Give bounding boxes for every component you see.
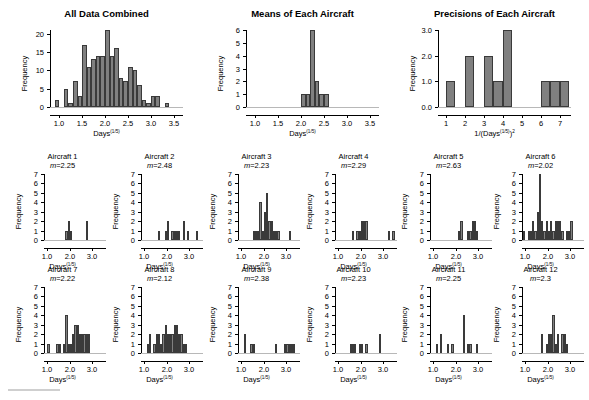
y-tick — [519, 334, 522, 335]
y-tick-label: 4 — [131, 311, 135, 320]
y-axis-label: Frequency — [208, 179, 217, 245]
y-tick — [235, 287, 238, 288]
panel-title: All Data Combined — [14, 8, 199, 19]
x-tick-label: 5 — [520, 119, 524, 128]
y-tick — [235, 193, 238, 194]
histogram-bar — [436, 344, 438, 353]
y-tick — [41, 315, 44, 316]
y-tick-label: 3 — [228, 208, 232, 217]
histogram-bar — [70, 231, 72, 240]
histogram-bar — [460, 221, 462, 240]
y-tick-label: 6 — [512, 179, 516, 188]
y-tick-label: 1 — [34, 227, 38, 236]
x-axis-line — [238, 248, 300, 249]
y-tick — [235, 212, 238, 213]
y-tick — [235, 344, 238, 345]
y-tick — [41, 193, 44, 194]
x-tick-label: 2.0 — [162, 252, 172, 261]
y-tick-label: 7 — [512, 283, 516, 292]
histogram-bar — [86, 221, 88, 240]
y-tick-label: 1 — [131, 340, 135, 349]
x-axis-line — [44, 361, 106, 362]
x-tick-label: 2.0 — [162, 365, 172, 374]
y-tick — [332, 202, 335, 203]
y-tick — [235, 183, 238, 184]
y-tick — [235, 221, 238, 222]
histogram-bar — [88, 334, 90, 353]
y-tick — [41, 344, 44, 345]
y-tick-label: 6 — [325, 292, 329, 301]
plot-area: 01234561.01.52.02.53.03.5 — [246, 30, 379, 107]
y-tick — [519, 325, 522, 326]
x-tick-label: 2.0 — [65, 365, 75, 374]
x-tick — [47, 361, 48, 364]
x-tick-label: 2.0 — [451, 252, 461, 261]
y-tick — [332, 287, 335, 288]
y-tick — [138, 344, 141, 345]
y-tick-label: 6 — [228, 292, 232, 301]
y-tick — [427, 287, 430, 288]
x-tick-label: 3.0 — [184, 252, 194, 261]
x-tick — [286, 361, 287, 364]
plot-area: 012345671.02.03.0 — [522, 287, 584, 353]
panel-precisions-of-each-aircraft: Precisions of Each Aircraft0.01.02.03.01… — [402, 8, 587, 143]
y-tick-label: 7 — [131, 170, 135, 179]
y-tick-label: 4 — [131, 198, 135, 207]
y-axis-label: Frequency — [305, 179, 314, 245]
plot-area: 012345671.02.03.0 — [141, 287, 203, 353]
x-axis-line — [438, 115, 571, 116]
x-tick-label: 1.0 — [250, 119, 260, 128]
y-tick-label: 1 — [34, 340, 38, 349]
histogram-bar — [388, 231, 390, 240]
histogram-bar — [155, 96, 160, 107]
panel-mean-label: m=2.25 — [400, 274, 497, 283]
x-tick — [174, 115, 175, 118]
y-tick — [332, 325, 335, 326]
y-tick — [243, 56, 246, 57]
y-tick-label: 20 — [36, 30, 44, 39]
y-tick — [427, 183, 430, 184]
y-tick-label: 1 — [420, 227, 424, 236]
y-tick-label: 2.0 — [422, 52, 432, 61]
x-tick-label: 3.0 — [87, 252, 97, 261]
x-tick-label: 2.0 — [356, 365, 366, 374]
x-tick — [522, 115, 523, 118]
y-tick-label: 7 — [512, 170, 516, 179]
y-tick-label: 4 — [236, 52, 240, 61]
y-tick-label: 0 — [228, 349, 232, 358]
x-tick — [255, 115, 256, 118]
y-tick — [235, 174, 238, 175]
histogram-bar — [185, 344, 187, 353]
y-tick-label: 0 — [34, 349, 38, 358]
y-tick-label: 6 — [420, 292, 424, 301]
y-axis-line — [238, 174, 239, 240]
y-tick-label: 2 — [228, 217, 232, 226]
x-tick-label: 1.0 — [139, 365, 149, 374]
x-tick-label: 1.0 — [520, 365, 530, 374]
plot-area: 012345671.02.03.0 — [335, 287, 397, 353]
y-tick — [332, 183, 335, 184]
x-tick-label: 2.0 — [100, 119, 110, 128]
y-tick — [519, 174, 522, 175]
baseline — [522, 240, 584, 241]
x-tick — [347, 115, 348, 118]
x-tick-label: 1.0 — [333, 365, 343, 374]
panel-aircraft-1: Aircraft 1m=2.25012345671.02.03.0Frequen… — [14, 152, 111, 272]
y-tick-label: 10 — [36, 66, 44, 75]
histogram-bar — [476, 231, 478, 240]
y-tick-label: 0 — [34, 236, 38, 245]
y-tick-label: 3.0 — [422, 26, 432, 35]
x-tick — [59, 115, 60, 118]
panel-all-data-combined: All Data Combined051015201.01.52.02.53.0… — [14, 8, 199, 143]
x-tick-label: 3.0 — [87, 365, 97, 374]
y-tick-label: 5 — [34, 189, 38, 198]
histogram-bar — [275, 344, 277, 353]
panel-means-of-each-aircraft: Means of Each Aircraft01234561.01.52.02.… — [210, 8, 395, 143]
x-tick — [278, 115, 279, 118]
histogram-bar — [167, 221, 169, 240]
y-axis-label: Frequency — [492, 292, 501, 358]
x-tick — [484, 115, 485, 118]
y-tick-label: 0 — [512, 349, 516, 358]
y-tick — [519, 344, 522, 345]
x-tick — [167, 248, 168, 251]
